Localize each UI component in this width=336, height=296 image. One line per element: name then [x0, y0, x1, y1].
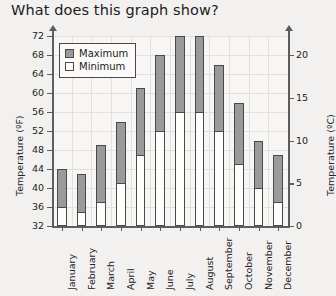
x-axis-tick: [278, 227, 279, 231]
legend: Maximum Minimum: [59, 43, 136, 78]
bar-minimum-february: [77, 212, 87, 226]
y-axis-right-tick: [289, 98, 294, 99]
y-axis-left-tick: [47, 112, 52, 113]
y-axis-left-tick: [47, 207, 52, 208]
x-axis-tick: [141, 227, 142, 231]
x-axis-label-february: February: [86, 248, 97, 290]
x-axis-tick: [82, 227, 83, 231]
gridline-vertical: [268, 36, 269, 226]
x-axis-label-june: June: [164, 269, 175, 290]
gridline-vertical: [229, 36, 230, 226]
legend-item-maximum: Maximum: [65, 47, 128, 60]
y-axis-left-tick: [47, 150, 52, 151]
y-axis-left-tick-label: 40: [4, 182, 44, 193]
legend-label-maximum: Maximum: [79, 48, 128, 59]
x-axis-tick: [62, 227, 63, 231]
gridline-vertical: [209, 36, 210, 226]
gridline-vertical: [170, 36, 171, 226]
gridline-vertical: [249, 36, 250, 226]
y-axis-right-line: [288, 30, 290, 228]
y-axis-left-line: [52, 30, 54, 228]
y-axis-left-tick: [47, 226, 52, 227]
y-axis-left-tick-label: 64: [4, 68, 44, 79]
gridline-vertical: [190, 36, 191, 226]
y-axis-left-tick: [47, 93, 52, 94]
y-axis-right-tick: [289, 226, 294, 227]
x-axis-label-march: March: [105, 261, 116, 290]
bar-minimum-january: [57, 207, 67, 226]
y-axis-left-tick: [47, 36, 52, 37]
x-axis-label-january: January: [66, 254, 77, 290]
y-axis-left-tick-label: 32: [4, 220, 44, 231]
y-axis-right-arrow-icon: [285, 25, 293, 31]
bar-minimum-september: [214, 131, 224, 226]
y-axis-right-tick-label: 0: [296, 220, 302, 231]
x-axis-label-december: December: [282, 241, 293, 290]
page-title: What does this graph show?: [11, 2, 219, 18]
legend-swatch-minimum-icon: [65, 62, 74, 71]
bar-minimum-october: [234, 164, 244, 226]
legend-item-minimum: Minimum: [65, 60, 128, 73]
x-axis-tick: [101, 227, 102, 231]
x-axis-label-may: May: [145, 270, 156, 290]
x-axis-label-september: September: [223, 237, 234, 290]
y-axis-right-tick: [289, 183, 294, 184]
bar-minimum-march: [96, 202, 106, 226]
y-axis-right-tick-label: 10: [296, 135, 308, 146]
y-axis-right-tick: [289, 141, 294, 142]
bar-minimum-december: [273, 202, 283, 226]
y-axis-left-tick-label: 36: [4, 201, 44, 212]
y-axis-right-title: Temperature (ºC): [325, 114, 336, 196]
x-axis-tick: [121, 227, 122, 231]
y-axis-left-tick-label: 68: [4, 49, 44, 60]
y-axis-right-tick-label: 5: [296, 177, 302, 188]
y-axis-left-arrow-icon: [49, 25, 57, 31]
x-axis-label-november: November: [263, 241, 274, 290]
gridline-vertical: [150, 36, 151, 226]
y-axis-left-tick: [47, 169, 52, 170]
x-axis-tick: [160, 227, 161, 231]
x-axis-label-august: August: [204, 257, 215, 290]
x-axis-line: [52, 226, 290, 228]
y-axis-right-tick-label: 20: [296, 49, 308, 60]
bar-minimum-april: [116, 183, 126, 226]
y-axis-left-tick-label: 44: [4, 163, 44, 174]
bar-minimum-june: [155, 131, 165, 226]
y-axis-left-tick: [47, 131, 52, 132]
x-axis-tick: [259, 227, 260, 231]
y-axis-left-tick: [47, 188, 52, 189]
y-axis-right-tick: [289, 55, 294, 56]
bar-minimum-may: [136, 155, 146, 226]
y-axis-left-tick: [47, 74, 52, 75]
bar-minimum-august: [195, 112, 205, 226]
y-axis-left-tick-label: 52: [4, 125, 44, 136]
x-axis-label-october: October: [243, 252, 254, 290]
y-axis-left-tick-label: 48: [4, 144, 44, 155]
x-axis-label-july: July: [184, 273, 195, 290]
x-axis-label-april: April: [125, 268, 136, 290]
y-axis-left-tick-label: 72: [4, 30, 44, 41]
y-axis-left-tick-label: 56: [4, 106, 44, 117]
x-axis-tick: [180, 227, 181, 231]
y-axis-right-tick-label: 15: [296, 92, 308, 103]
y-axis-left-tick-label: 60: [4, 87, 44, 98]
bar-minimum-november: [254, 188, 264, 226]
x-axis-tick: [219, 227, 220, 231]
bar-minimum-july: [175, 112, 185, 226]
legend-swatch-maximum-icon: [65, 49, 74, 58]
x-axis-tick: [239, 227, 240, 231]
y-axis-left-tick: [47, 55, 52, 56]
legend-label-minimum: Minimum: [79, 61, 125, 72]
x-axis-tick: [200, 227, 201, 231]
